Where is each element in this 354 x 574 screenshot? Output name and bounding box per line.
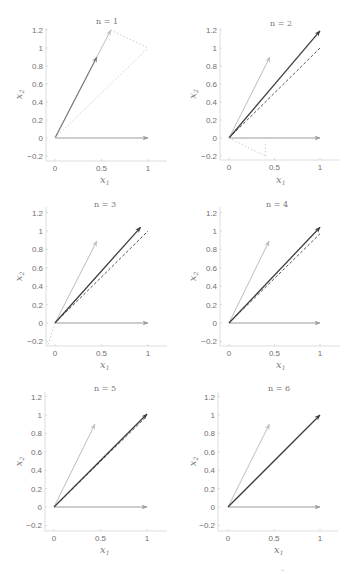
y-axis-label: x2 xyxy=(13,90,25,100)
y-tick-label: −0.2 xyxy=(26,521,42,530)
y-tick-label: 0.6 xyxy=(204,448,216,457)
current-vector xyxy=(229,31,320,138)
target-vector xyxy=(55,48,148,138)
y-tick-label: 0.8 xyxy=(206,62,218,71)
y-tick-label: −0.2 xyxy=(27,337,43,346)
y-tick-label: 1.2 xyxy=(32,209,44,218)
y-tick-label: 0.2 xyxy=(206,116,218,125)
x-tick-label: 1 xyxy=(145,534,150,543)
y-tick-label: 0.6 xyxy=(206,80,218,89)
y-tick-label: 0.6 xyxy=(32,264,44,273)
y-tick-label: 1 xyxy=(39,44,44,53)
x-tick-label: 1 xyxy=(318,534,323,543)
figure: 1.210.80.60.40.20−0.200.51n = 1x1x21.210… xyxy=(0,0,354,574)
x-tick-label: 0.5 xyxy=(96,164,108,173)
x-tick-label: 0.5 xyxy=(96,349,108,358)
y-tick-label: 0.4 xyxy=(206,98,218,107)
panel-n6: 1.210.80.60.40.20−0.200.51n = 6x1x2 xyxy=(187,384,338,556)
x-tick-label: 0 xyxy=(226,534,231,543)
light-short-vector xyxy=(55,241,97,323)
x-tick-label: 1 xyxy=(146,349,151,358)
light-short-vector xyxy=(228,424,269,507)
current-vector xyxy=(229,227,320,323)
x-axis-label: x1 xyxy=(274,544,283,556)
y-axis-label: x2 xyxy=(187,457,199,467)
light-short-vector xyxy=(54,424,95,507)
panel-n4: 1.210.80.60.40.20−0.200.51n = 4x1x2 xyxy=(187,200,340,371)
x-tick-label: 0 xyxy=(227,163,232,172)
footer-fragment: ~ xyxy=(280,566,285,573)
y-tick-label: 1.2 xyxy=(32,26,44,35)
axis-frame xyxy=(46,28,167,161)
y-tick-label: 1 xyxy=(213,44,218,53)
y-tick-label: 1.2 xyxy=(206,26,218,35)
y-tick-label: 0 xyxy=(39,319,44,328)
panel-n2: 1.210.80.60.40.20−0.200.51n = 2x1x2 xyxy=(187,19,340,186)
y-tick-label: 1.2 xyxy=(206,209,218,218)
y-tick-label: −0.2 xyxy=(201,152,217,161)
panel-grid: 1.210.80.60.40.20−0.200.51n = 1x1x21.210… xyxy=(13,17,340,556)
y-axis-label: x2 xyxy=(187,272,199,282)
y-tick-label: 0.6 xyxy=(31,448,43,457)
target-vector xyxy=(229,48,320,138)
axis-frame xyxy=(46,207,167,346)
x-axis-label: x1 xyxy=(276,359,285,371)
panel-title: n = 2 xyxy=(270,19,292,28)
y-tick-label: −0.2 xyxy=(27,152,43,161)
y-axis-label: x2 xyxy=(187,89,199,99)
light-short-vector xyxy=(229,241,269,323)
y-tick-label: −0.2 xyxy=(201,337,217,346)
panel-n5: 1.210.80.60.40.20−0.200.51n = 5x1x2 xyxy=(13,384,167,556)
y-tick-label: 0.8 xyxy=(206,245,218,254)
axis-frame xyxy=(45,392,167,531)
current-vector xyxy=(55,57,97,138)
axis-frame xyxy=(220,28,340,160)
x-tick-label: 0.5 xyxy=(95,534,107,543)
x-tick-label: 0.5 xyxy=(269,163,281,172)
y-tick-label: 0.4 xyxy=(204,466,216,475)
y-tick-label: −0.2 xyxy=(199,521,215,530)
y-tick-label: 0.2 xyxy=(31,485,43,494)
x-tick-label: 0.5 xyxy=(268,534,280,543)
y-tick-label: 0 xyxy=(213,134,218,143)
x-tick-label: 0 xyxy=(53,349,58,358)
y-axis-label: x2 xyxy=(13,272,25,282)
y-tick-label: 1 xyxy=(213,227,218,236)
panel-title: n = 6 xyxy=(268,384,290,393)
y-tick-label: 0.2 xyxy=(206,301,218,310)
y-tick-label: 0 xyxy=(213,319,218,328)
y-tick-label: 1.2 xyxy=(204,393,216,402)
y-tick-label: 0.8 xyxy=(31,429,43,438)
y-tick-label: 0.4 xyxy=(31,466,43,475)
x-tick-label: 1 xyxy=(318,163,323,172)
y-tick-label: 0 xyxy=(38,503,43,512)
x-tick-label: 1 xyxy=(318,349,323,358)
panel-n1: 1.210.80.60.40.20−0.200.51n = 1x1x2 xyxy=(13,17,167,186)
difference-vector xyxy=(229,138,265,156)
x-axis-label: x1 xyxy=(100,544,109,556)
y-tick-label: 0.2 xyxy=(32,116,44,125)
difference-vector xyxy=(111,30,148,48)
y-tick-label: 1.2 xyxy=(31,393,43,402)
y-tick-label: 0.4 xyxy=(32,282,44,291)
y-tick-label: 0.8 xyxy=(32,62,44,71)
y-tick-label: 0.4 xyxy=(32,98,44,107)
axis-frame xyxy=(218,392,338,531)
x-tick-label: 0 xyxy=(227,349,232,358)
y-tick-label: 1 xyxy=(211,411,216,420)
y-tick-label: 0.8 xyxy=(32,245,44,254)
x-tick-label: 1 xyxy=(146,164,151,173)
x-tick-label: 0 xyxy=(53,164,58,173)
target-vector xyxy=(229,234,320,323)
panel-n3: 1.210.80.60.40.20−0.200.51n = 3x1x2 xyxy=(13,200,167,371)
y-tick-label: 0.4 xyxy=(206,282,218,291)
y-tick-label: 0.2 xyxy=(204,485,216,494)
axis-frame xyxy=(220,207,340,346)
y-tick-label: 0.2 xyxy=(32,301,44,310)
difference-vector xyxy=(48,323,55,346)
y-tick-label: 0 xyxy=(211,503,216,512)
y-tick-label: 1 xyxy=(38,411,43,420)
panel-title: n = 5 xyxy=(94,384,116,393)
x-axis-label: x1 xyxy=(100,174,109,186)
panel-title: n = 1 xyxy=(96,17,118,26)
